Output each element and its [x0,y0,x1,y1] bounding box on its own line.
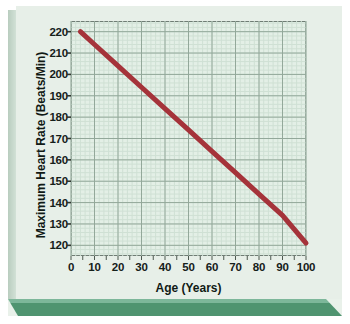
y-axis-tick-labels: 120130140150160170180190200210220 [20,21,68,256]
card-base-plate [8,299,342,316]
y-tick-label: 120 [26,239,68,251]
y-tick-label: 140 [26,197,68,209]
y-tick-label: 180 [26,111,68,123]
y-tick-label: 150 [26,175,68,187]
x-axis-title: Age (Years) [71,281,306,295]
y-tick-label: 130 [26,218,68,230]
y-tick-label: 160 [26,154,68,166]
data-series-line [71,21,306,256]
card-base-left-corner [8,299,18,316]
y-tick-label: 210 [26,47,68,59]
y-tick-label: 170 [26,133,68,145]
y-tick-label: 190 [26,90,68,102]
y-tick-label: 220 [26,26,68,38]
chart-figure: Maximum Heart Rate (Beats/Min) 120130140… [0,0,350,324]
plot-area [71,21,306,256]
y-tick-label: 200 [26,68,68,80]
x-tick-label: 100 [286,261,326,273]
x-axis-tick-labels: 0102030405060708090100 [71,261,306,277]
